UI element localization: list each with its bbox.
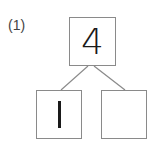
part-right-box-empty[interactable] — [101, 90, 147, 139]
part-left-box — [36, 90, 82, 139]
whole-number: 4 — [81, 24, 104, 60]
part-left-number-one — [58, 101, 61, 128]
whole-number-box: 4 — [69, 17, 116, 66]
